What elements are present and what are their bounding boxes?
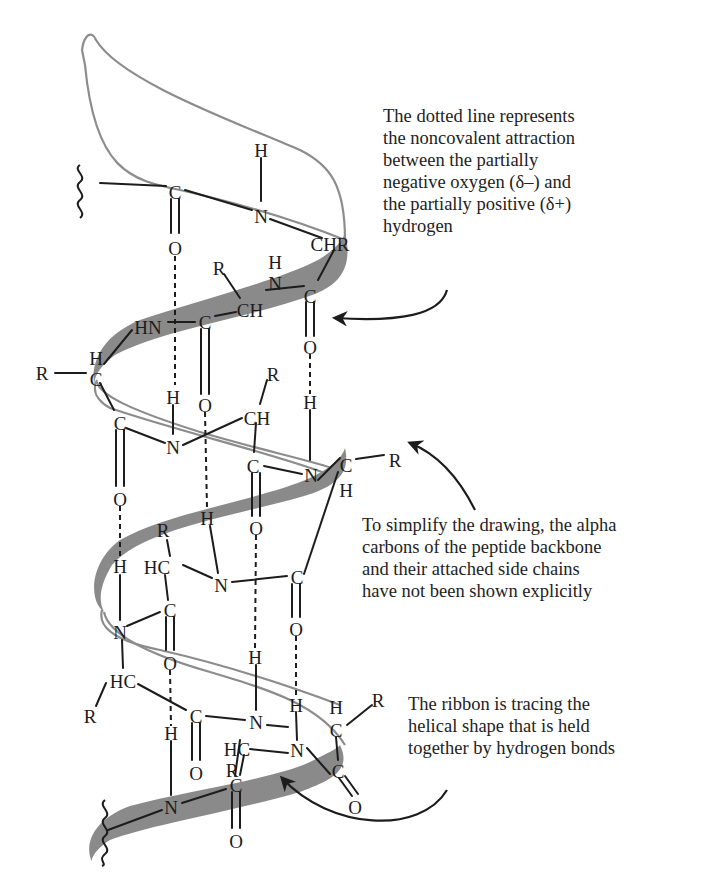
- atom-label-o: O: [348, 797, 362, 818]
- atom-label-hc: HC: [110, 671, 136, 692]
- atom-label-r: R: [372, 690, 385, 711]
- atom-label-c: C: [291, 567, 304, 588]
- atom-label-h: H: [268, 252, 282, 273]
- atom-label-n: N: [113, 622, 127, 643]
- ribbon-callout: The ribbon is tracing the helical shape …: [408, 693, 615, 759]
- atom-label-c: C: [330, 720, 343, 741]
- atom-label-c: C: [247, 456, 260, 477]
- atom-label-o: O: [189, 763, 203, 784]
- atom-label-h: H: [248, 647, 262, 668]
- atom-label-r: R: [389, 450, 402, 471]
- simplify-callout: To simplify the drawing, the alpha carbo…: [362, 514, 617, 602]
- atom-label-c: C: [190, 706, 203, 727]
- atom-label-c: C: [164, 600, 177, 621]
- atom-label-n: N: [254, 206, 268, 227]
- ribbon-back-top: [82, 35, 345, 240]
- callout-line: carbons of the peptide backbone: [362, 536, 617, 558]
- atom-label-hc: HC: [224, 739, 250, 760]
- ribbon-back-mid-lower: [97, 382, 338, 470]
- callout-line: The ribbon is tracing the: [408, 693, 615, 715]
- callout-line: To simplify the drawing, the alpha: [362, 514, 617, 536]
- ribbon-back-mid-upper: [95, 380, 330, 475]
- atom-label-o: O: [168, 238, 182, 259]
- alpha-helix-figure: HCNCHROHNRCCHHNCOHRCRHOHCHCNCNOHORRCHHHC…: [0, 0, 715, 873]
- atom-label-o: O: [289, 619, 303, 640]
- chain-continuation-marks: [78, 165, 108, 866]
- callout-line: The dotted line represents: [383, 105, 575, 127]
- atom-label-c: C: [199, 312, 212, 333]
- atom-label-ch: CH: [244, 408, 271, 429]
- atom-label-o: O: [303, 337, 317, 358]
- atom-label-r: R: [84, 706, 97, 727]
- atom-label-hc: HC: [144, 557, 170, 578]
- atom-label-o: O: [198, 395, 212, 416]
- atom-label-n: N: [166, 437, 180, 458]
- atom-label-c: C: [90, 369, 103, 390]
- atom-label-o: O: [229, 831, 243, 852]
- atom-label-c: C: [114, 413, 127, 434]
- atom-label-c: C: [340, 455, 353, 476]
- ribbon-front-bands: [89, 232, 347, 862]
- atom-label-r: R: [267, 364, 280, 385]
- atom-labels: HCNCHROHNRCCHHNCOHRCRHOHCHCNCNOHORRCHHHC…: [36, 140, 402, 852]
- arrow-to-hydrogen-bond: [335, 290, 447, 319]
- atom-label-r: R: [36, 363, 49, 384]
- callout-line: together by hydrogen bonds: [408, 737, 615, 759]
- callout-line: the noncovalent attraction: [383, 127, 575, 149]
- atom-label-h: H: [303, 392, 317, 413]
- arrow-to-side-chain: [410, 443, 475, 510]
- atom-label-h: H: [113, 556, 127, 577]
- atom-label-o: O: [163, 653, 177, 674]
- ribbon-back-lower-lower: [104, 612, 345, 745]
- atom-label-c: C: [169, 182, 182, 203]
- h-bond: [170, 670, 171, 726]
- atom-label-chr: CHR: [310, 234, 349, 255]
- atom-label-n: N: [290, 740, 304, 761]
- atom-label-r: R: [213, 258, 226, 279]
- atom-label-n: N: [214, 575, 228, 596]
- atom-label-o: O: [249, 518, 263, 539]
- atom-label-h: H: [289, 695, 303, 716]
- dotted-line-callout: The dotted line represents the noncovale…: [383, 105, 575, 237]
- ribbon-front-bottom: [89, 745, 343, 862]
- atom-label-c: C: [332, 761, 345, 782]
- atom-label-c: C: [230, 775, 243, 796]
- atom-label-n: N: [249, 712, 263, 733]
- atom-label-h: H: [329, 697, 343, 718]
- atom-label-hn: HN: [134, 317, 162, 338]
- callout-line: the partially positive (δ+): [383, 193, 575, 215]
- atom-label-n: N: [304, 465, 318, 486]
- ribbon-back-lower-upper: [101, 610, 340, 705]
- callout-line: helical shape that is held: [408, 715, 615, 737]
- atom-label-h: H: [254, 140, 268, 161]
- atom-label-ch: CH: [237, 300, 264, 321]
- callout-line: hydrogen: [383, 215, 575, 237]
- atom-label-h: H: [339, 480, 353, 501]
- atom-label-n: N: [164, 797, 178, 818]
- h-bond: [255, 535, 256, 648]
- callout-line: negative oxygen (δ–) and: [383, 171, 575, 193]
- callout-line: have not been shown explicitly: [362, 580, 617, 602]
- callout-line: between the partially: [383, 149, 575, 171]
- atom-label-r: R: [157, 520, 170, 541]
- atom-label-h: H: [164, 723, 178, 744]
- atom-label-h: H: [200, 508, 214, 529]
- wavy-break-top-icon: [78, 165, 83, 218]
- h-bond: [205, 412, 207, 508]
- atom-label-h: H: [166, 387, 180, 408]
- atom-label-c: C: [304, 286, 317, 307]
- atom-label-n: N: [268, 273, 282, 294]
- atom-label-h: H: [89, 348, 103, 369]
- callout-line: and their attached side chains: [362, 558, 617, 580]
- atom-label-o: O: [113, 489, 127, 510]
